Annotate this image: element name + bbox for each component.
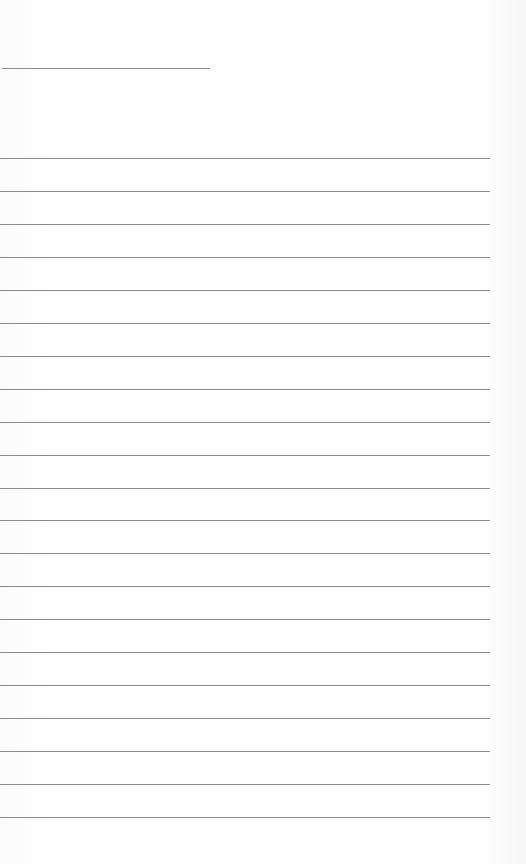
ruled-line — [0, 224, 490, 225]
ruled-line — [0, 817, 490, 818]
ruled-line — [0, 751, 490, 752]
ruled-line — [0, 488, 490, 489]
ruled-line — [0, 257, 490, 258]
ruled-line — [0, 389, 490, 390]
ruled-line — [0, 685, 490, 686]
lined-paper-page — [0, 0, 526, 864]
ruled-line — [0, 586, 490, 587]
ruled-line — [0, 323, 490, 324]
ruled-line — [0, 619, 490, 620]
ruled-line — [0, 191, 490, 192]
ruled-line — [0, 422, 490, 423]
ruled-line — [0, 718, 490, 719]
ruled-line — [0, 652, 490, 653]
ruled-line — [0, 290, 490, 291]
ruled-line — [0, 784, 490, 785]
title-underline — [2, 68, 210, 69]
ruled-line — [0, 158, 490, 159]
ruled-line — [0, 455, 490, 456]
ruled-line — [0, 356, 490, 357]
ruled-line — [0, 520, 490, 521]
ruled-line — [0, 553, 490, 554]
